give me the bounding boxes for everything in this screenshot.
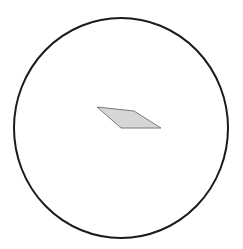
diagram-canvas bbox=[0, 0, 243, 249]
